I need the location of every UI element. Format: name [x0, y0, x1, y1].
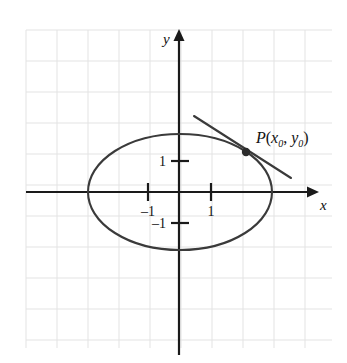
y-axis-label: y — [161, 31, 170, 47]
figure-canvas: y x P(x0, y0) –111–1 — [0, 0, 347, 363]
point-label-x-var: x — [270, 129, 278, 146]
point-p-marker — [242, 148, 250, 156]
y-axis-tick-label: –1 — [151, 216, 166, 231]
x-axis-label: x — [319, 197, 327, 213]
y-axis-tick-label: 1 — [159, 154, 166, 169]
point-label-close-paren: ) — [303, 129, 308, 147]
point-label-p: P — [255, 129, 266, 146]
x-axis-tick-label: 1 — [208, 204, 215, 219]
ellipse-tangent-figure: y x P(x0, y0) –111–1 — [0, 0, 347, 363]
point-label-comma: , — [283, 129, 291, 146]
